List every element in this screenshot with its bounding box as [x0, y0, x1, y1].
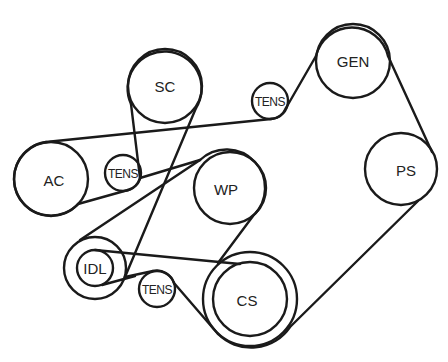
pulley-tens-top: TENS	[252, 83, 288, 119]
pulley-tens-low: TENS	[139, 271, 175, 307]
pulley-tens-mid: TENS	[105, 155, 141, 191]
ps-label: PS	[396, 162, 416, 179]
belt-segment-tens-wp	[140, 160, 200, 178]
sc-label: SC	[155, 78, 176, 95]
pulley-idl: IDL	[64, 237, 126, 299]
pulley-sc: SC	[128, 49, 202, 123]
belt-segment-cs-ps	[290, 201, 418, 327]
belt-segment-ps-gen	[388, 56, 432, 152]
belt-routing-diagram: SC GEN TENS AC TENS WP PS IDL TENS CS	[0, 0, 448, 362]
ac-label: AC	[44, 172, 65, 189]
belt-segment-idl-cs	[95, 250, 240, 264]
pulley-cs: CS	[203, 252, 297, 346]
cs-label: CS	[237, 292, 258, 309]
pulley-wp: WP	[194, 152, 266, 224]
tens-mid-label: TENS	[108, 167, 139, 181]
gen-label: GEN	[337, 53, 370, 70]
belt-segment-gen-tens	[286, 56, 316, 108]
pulley-gen: GEN	[316, 24, 390, 98]
pulley-ps: PS	[365, 133, 437, 205]
wp-label: WP	[214, 181, 238, 198]
idl-label: IDL	[83, 260, 106, 277]
tens-low-label: TENS	[142, 283, 173, 297]
tens-top-label: TENS	[255, 95, 286, 109]
pulley-ac: AC	[14, 142, 88, 216]
